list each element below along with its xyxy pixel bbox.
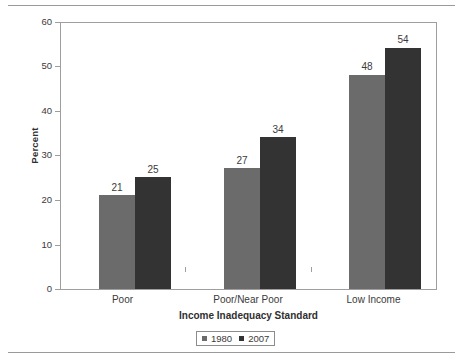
bar-label-poor-near-poor-1980: 27 <box>222 155 262 166</box>
x-tick-mark-3 <box>436 267 437 272</box>
x-tick-mark-0 <box>60 267 61 272</box>
y-tick-label-60: 60 <box>6 17 52 27</box>
bar-label-poor-1980: 21 <box>97 182 137 193</box>
y-tick-label-20: 20 <box>6 195 52 205</box>
x-axis-title: Income Inadequacy Standard <box>60 310 437 321</box>
legend-label-2007: 2007 <box>248 334 269 344</box>
x-category-label-poor-near-poor: Poor/Near Poor <box>185 294 311 306</box>
bar-poor-2007[interactable] <box>135 177 171 289</box>
bar-label-low-income-1980: 48 <box>347 61 387 72</box>
bar-poor-near-poor-2007[interactable] <box>260 137 296 289</box>
y-tick-label-50: 50 <box>6 61 52 71</box>
bar-label-low-income-2007: 54 <box>383 34 423 45</box>
bottom-divider-rule <box>8 352 455 353</box>
legend-swatch-icon-1980 <box>202 336 207 341</box>
legend-swatch-icon-2007 <box>239 336 244 341</box>
x-tick-mark-1 <box>185 267 186 272</box>
legend-item-2007[interactable]: 2007 <box>239 334 269 344</box>
bar-low-income-2007[interactable] <box>385 48 421 289</box>
legend-item-1980[interactable]: 1980 <box>202 334 232 344</box>
bar-poor-near-poor-1980[interactable] <box>224 168 260 289</box>
y-tick-label-0: 0 <box>6 284 52 294</box>
bar-low-income-1980[interactable] <box>349 75 385 289</box>
bar-label-poor-2007: 25 <box>133 164 173 175</box>
legend-label-1980: 1980 <box>211 334 232 344</box>
x-category-label-poor: Poor <box>60 294 185 306</box>
bar-group-poor-near-poor: 27 34 <box>224 23 296 289</box>
top-divider-rule <box>8 5 455 6</box>
bar-poor-1980[interactable] <box>99 195 135 289</box>
legend: 1980 2007 <box>196 331 275 346</box>
figure-container: 60 50 40 30 20 10 0 Percent 21 25 27 34 <box>0 0 463 363</box>
y-tick-label-10: 10 <box>6 240 52 250</box>
bar-group-low-income: 48 54 <box>349 23 421 289</box>
bar-label-poor-near-poor-2007: 34 <box>258 124 298 135</box>
bar-group-poor: 21 25 <box>99 23 171 289</box>
x-category-label-low-income: Low Income <box>311 294 436 306</box>
x-tick-mark-2 <box>311 267 312 272</box>
y-axis-title: Percent <box>29 106 40 186</box>
plot-area: 21 25 27 34 48 54 <box>60 22 437 290</box>
